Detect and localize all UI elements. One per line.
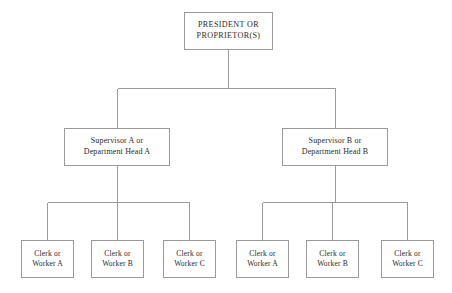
node-clerk-a-1: Clerk or Worker A <box>21 240 74 278</box>
node-supervisor-b-line-2: Department Head B <box>302 147 369 158</box>
node-president-line-2: PROPRIETOR(S) <box>197 31 261 42</box>
node-clerk-b-3: Clerk or Worker C <box>381 240 434 278</box>
node-supervisor-b-line-1: Supervisor B or <box>309 136 362 147</box>
node-clerk-a-3-line-1: Clerk or <box>176 249 202 259</box>
node-clerk-a-3-line-2: Worker C <box>174 259 205 269</box>
node-president: PRESIDENT OR PROPRIETOR(S) <box>184 12 273 50</box>
node-clerk-b-2-line-1: Clerk or <box>319 249 345 259</box>
node-president-line-1: PRESIDENT OR <box>198 20 259 31</box>
node-clerk-a-1-line-2: Worker A <box>32 259 63 269</box>
node-clerk-b-1-line-2: Worker A <box>247 259 278 269</box>
node-supervisor-a-line-1: Supervisor A or <box>91 136 143 147</box>
node-clerk-a-2-line-1: Clerk or <box>104 249 130 259</box>
node-supervisor-b: Supervisor B or Department Head B <box>282 128 388 166</box>
node-clerk-a-1-line-1: Clerk or <box>34 249 60 259</box>
org-chart: PRESIDENT OR PROPRIETOR(S) Supervisor A … <box>0 0 452 293</box>
node-supervisor-a: Supervisor A or Department Head A <box>64 128 170 166</box>
node-clerk-b-3-line-2: Worker C <box>392 259 423 269</box>
node-clerk-a-3: Clerk or Worker C <box>163 240 216 278</box>
node-clerk-a-2: Clerk or Worker B <box>91 240 144 278</box>
node-clerk-b-1-line-1: Clerk or <box>249 249 275 259</box>
node-clerk-b-3-line-1: Clerk or <box>394 249 420 259</box>
node-clerk-b-1: Clerk or Worker A <box>236 240 289 278</box>
node-supervisor-a-line-2: Department Head A <box>84 147 151 158</box>
node-clerk-b-2: Clerk or Worker B <box>306 240 359 278</box>
node-clerk-a-2-line-2: Worker B <box>102 259 133 269</box>
node-clerk-b-2-line-2: Worker B <box>317 259 348 269</box>
